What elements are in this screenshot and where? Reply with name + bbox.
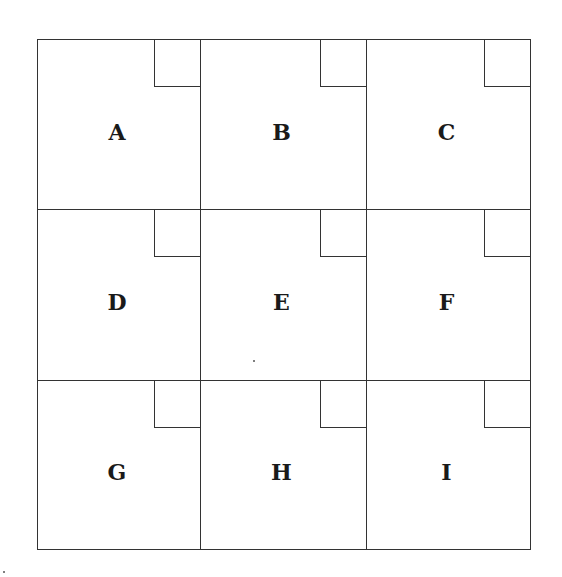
corner-square [320, 381, 366, 428]
grid-diagram: A B C D E F G H I [37, 39, 531, 550]
cell-label: C [438, 119, 456, 145]
speck [253, 360, 255, 362]
corner-square [484, 210, 530, 257]
cell-label: B [272, 119, 291, 145]
cell-i: I [367, 381, 530, 549]
cell-e: E [201, 210, 367, 381]
corner-square [484, 40, 530, 87]
cell-label: I [441, 459, 451, 485]
speck [3, 571, 5, 573]
cell-c: C [367, 40, 530, 210]
cell-a: A [38, 40, 201, 210]
cell-label: F [439, 289, 455, 315]
corner-square [320, 40, 366, 87]
cell-f: F [367, 210, 530, 381]
corner-square [484, 381, 530, 428]
cell-label: E [273, 289, 290, 315]
cell-h: H [201, 381, 367, 549]
corner-square [154, 210, 200, 257]
cell-label: G [108, 459, 127, 485]
cell-label: A [108, 119, 125, 145]
cell-d: D [38, 210, 201, 381]
cell-label: D [107, 289, 126, 315]
corner-square [320, 210, 366, 257]
corner-square [154, 381, 200, 428]
cell-g: G [38, 381, 201, 549]
cell-b: B [201, 40, 367, 210]
cell-label: H [271, 459, 292, 485]
corner-square [154, 40, 200, 87]
